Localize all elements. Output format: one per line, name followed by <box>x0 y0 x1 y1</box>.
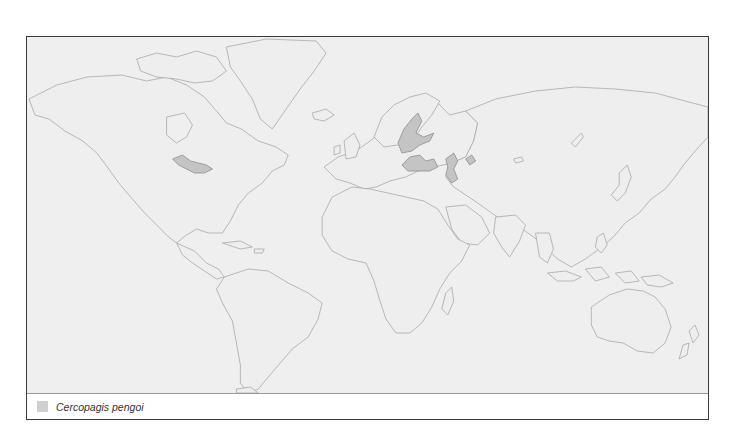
indian-subcontinent <box>494 215 526 257</box>
legend: Cercopagis pengoi <box>27 393 708 420</box>
central-america <box>177 243 225 279</box>
world-map-svg <box>27 37 708 393</box>
greenland <box>226 39 326 129</box>
world-map <box>27 37 708 394</box>
caribbean-islands <box>222 241 264 253</box>
legend-label: Cercopagis pengoi <box>56 401 144 413</box>
new-zealand <box>679 325 699 359</box>
australia <box>591 289 671 353</box>
north-america <box>29 75 288 243</box>
british-isles <box>334 133 360 159</box>
new-guinea <box>641 275 673 287</box>
madagascar <box>442 287 454 315</box>
map-frame: Cercopagis pengoi <box>26 36 709 420</box>
arctic-archipelago <box>137 51 227 83</box>
indonesia <box>547 267 639 283</box>
south-america <box>216 269 322 393</box>
legend-swatch <box>37 401 48 412</box>
iceland <box>312 109 334 121</box>
southeast-asia <box>536 233 554 263</box>
asia <box>446 87 708 267</box>
